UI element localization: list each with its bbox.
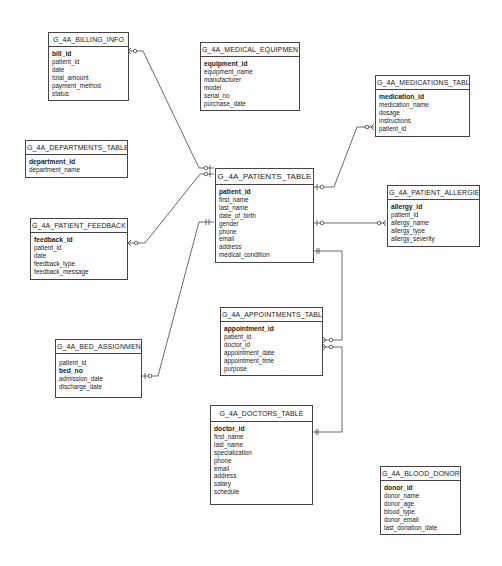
field: patient_id: [59, 359, 138, 367]
field: schedule: [214, 488, 309, 496]
field: model: [204, 84, 296, 92]
entity-patients[interactable]: G_4A_PATIENTS_TABLE patient_id first_nam…: [215, 168, 314, 263]
entity-title: G_4A_BLOOD_DONORS: [381, 467, 460, 481]
entity-title: G_4A_PATIENTS_TABLE: [216, 169, 313, 185]
entity-title: G_4A_BED_ASSIGNMENT: [56, 340, 141, 354]
entity-blood-donors[interactable]: G_4A_BLOOD_DONORS donor_id donor_name do…: [380, 466, 461, 535]
field: first_name: [219, 196, 310, 204]
entity-billing-info[interactable]: G_4A_BILLING_INFO bill_id patient_id dat…: [48, 32, 129, 101]
rel-bed-patients: [142, 222, 214, 376]
field: patient_id: [379, 125, 466, 133]
field: feedback_message: [34, 268, 124, 276]
field: patient_id: [224, 333, 319, 341]
field: doctor_id: [224, 341, 319, 349]
field: date: [34, 252, 124, 260]
field: blood_type: [384, 508, 457, 516]
field: gender: [219, 220, 310, 228]
field-primary-key: donor_id: [384, 484, 457, 492]
entity-title: G_4A_DOCTORS_TABLE: [211, 406, 312, 422]
field: total_amount: [52, 74, 125, 82]
field: instructions: [379, 117, 466, 125]
field: serial_no: [204, 92, 296, 100]
field: address: [214, 472, 309, 480]
field: specialization: [214, 449, 309, 457]
field: allergy_type: [391, 227, 476, 235]
field-primary-key: allergy_id: [391, 203, 476, 211]
entity-title: G_4A_MEDICATIONS_TABLE: [376, 76, 469, 90]
field: feedback_type: [34, 260, 124, 268]
field-primary-key: equipment_id: [204, 60, 296, 68]
entity-patient-feedback[interactable]: G_4A_PATIENT_FEEDBACK feedback_id patien…: [30, 218, 128, 280]
entity-doctors[interactable]: G_4A_DOCTORS_TABLE doctor_id first_name …: [210, 405, 313, 505]
field: email: [219, 235, 310, 243]
field: date: [52, 66, 125, 74]
field: donor_name: [384, 492, 457, 500]
entity-title: G_4A_PATIENT_ALLERGIES: [388, 186, 479, 200]
field: date_of_birth: [219, 212, 310, 220]
field: medication_name: [379, 101, 466, 109]
field: medical_condition: [219, 251, 310, 259]
rel-feedback-patients: [128, 174, 214, 243]
field: patient_id: [391, 211, 476, 219]
entity-departments[interactable]: G_4A_DEPARTMENTS_TABLE department_id dep…: [25, 140, 128, 178]
field: salary: [214, 480, 309, 488]
entity-patient-allergies[interactable]: G_4A_PATIENT_ALLERGIES allergy_id patien…: [387, 185, 480, 247]
entity-bed-assignment[interactable]: G_4A_BED_ASSIGNMENT patient_id bed_no ad…: [55, 339, 142, 398]
field: donor_email: [384, 516, 457, 524]
field: appointment_time: [224, 357, 319, 365]
field-primary-key: bed_no: [59, 367, 138, 375]
field: last_name: [219, 204, 310, 212]
field: patient_id: [52, 58, 125, 66]
entity-medical-equipment[interactable]: G_4A_MEDICAL_EQUIPMENT equipment_id equi…: [200, 42, 300, 111]
field: first_name: [214, 433, 309, 441]
field: status: [52, 90, 125, 98]
entity-title: G_4A_PATIENT_FEEDBACK: [31, 219, 127, 233]
field-primary-key: medication_id: [379, 93, 466, 101]
field-primary-key: patient_id: [219, 188, 310, 196]
field: dosage: [379, 109, 466, 117]
field-primary-key: department_id: [29, 158, 124, 166]
entity-appointments[interactable]: G_4A_APPOINTMENTS_TABLE appointment_id p…: [220, 307, 323, 376]
field: address: [219, 243, 310, 251]
field-primary-key: feedback_id: [34, 236, 124, 244]
field: last_name: [214, 441, 309, 449]
entity-title: G_4A_MEDICAL_EQUIPMENT: [201, 43, 299, 57]
field: last_donation_date: [384, 524, 457, 532]
field: purpose: [224, 365, 319, 373]
field-primary-key: doctor_id: [214, 425, 309, 433]
field-primary-key: bill_id: [52, 50, 125, 58]
field-primary-key: appointment_id: [224, 325, 319, 333]
field: allergy_severity: [391, 235, 476, 243]
field: allergy_name: [391, 219, 476, 227]
field: manufacturer: [204, 76, 296, 84]
field: purchase_date: [204, 100, 296, 108]
entity-title: G_4A_BILLING_INFO: [49, 33, 128, 47]
field: discharge_date: [59, 383, 138, 391]
field: donor_age: [384, 500, 457, 508]
entity-title: G_4A_APPOINTMENTS_TABLE: [221, 308, 322, 322]
rel-patients-medications: [314, 127, 374, 187]
field: phone: [214, 457, 309, 465]
entity-title: G_4A_DEPARTMENTS_TABLE: [26, 141, 127, 155]
entity-medications[interactable]: G_4A_MEDICATIONS_TABLE medication_id med…: [375, 75, 470, 137]
field: admission_date: [59, 375, 138, 383]
field: email: [214, 465, 309, 473]
field: department_name: [29, 166, 124, 174]
field: payment_method: [52, 82, 125, 90]
field: phone: [219, 228, 310, 236]
field: appointment_date: [224, 349, 319, 357]
field: equipment_name: [204, 68, 296, 76]
field: patient_id: [34, 244, 124, 252]
